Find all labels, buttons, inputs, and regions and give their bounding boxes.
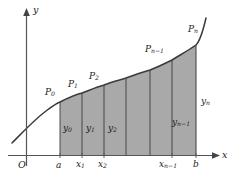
tick-label-a: a <box>56 161 61 170</box>
tick-label-x1-sub: 1 <box>81 162 85 169</box>
y-axis-arrow-icon <box>23 8 30 16</box>
tick-label-b-main: b <box>193 159 199 169</box>
curve-point-P0-sub: 0 <box>51 90 55 97</box>
curve-point-label-Pn-1: Pn−1 <box>145 45 164 54</box>
y-axis-label: y <box>33 5 38 15</box>
tick-label-b: b <box>193 160 199 169</box>
riemann-sum-figure: y x O a x1 x2 xn−1 b P0 P1 P2 Pn−1 Pn y0… <box>0 0 233 183</box>
curve-point-label-P0: P0 <box>45 88 55 97</box>
curve-point-label-P2: P2 <box>89 72 99 81</box>
tick-label-x2-sub: 2 <box>103 162 107 169</box>
curve-point-label-P1: P1 <box>68 80 78 89</box>
ordinate-label-y1: y1 <box>86 124 95 133</box>
ordinate-y2-sub: 2 <box>113 126 117 133</box>
tick-label-xn-1: xn−1 <box>159 160 177 169</box>
ordinate-label-y0: y0 <box>63 124 72 133</box>
ordinate-y1-sub: 1 <box>91 126 95 133</box>
x-axis-arrow-icon <box>212 152 220 159</box>
curve-point-P1-sub: 1 <box>74 82 78 89</box>
ordinate-yn-1-sub: n−1 <box>177 120 190 127</box>
origin-label: O <box>18 160 26 170</box>
tick-label-x1: x1 <box>76 160 85 169</box>
curve-point-label-Pn: Pn <box>188 25 198 34</box>
figure-canvas <box>0 0 233 183</box>
ordinate-yn-sub: n <box>206 99 210 106</box>
curve-point-P2-sub: 2 <box>95 74 99 81</box>
ordinate-y0-sub: 0 <box>68 126 72 133</box>
tick-label-x2: x2 <box>98 160 107 169</box>
tick-label-a-main: a <box>56 160 61 170</box>
ordinate-label-yn-1: yn−1 <box>172 118 190 127</box>
tick-label-xn-1-sub: n−1 <box>164 162 177 169</box>
ordinate-label-y2: y2 <box>108 124 117 133</box>
curve-point-Pn-1-sub: n−1 <box>151 47 164 54</box>
ordinate-label-yn: yn <box>201 97 210 106</box>
curve-point-Pn-sub: n <box>194 27 198 34</box>
shaded-region <box>60 45 196 155</box>
x-axis-label: x <box>222 150 227 160</box>
